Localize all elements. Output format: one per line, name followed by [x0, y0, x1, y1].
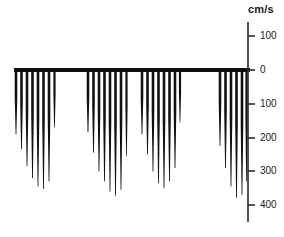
- axis-tick-label: 100: [260, 98, 277, 109]
- velocity-spike: [141, 70, 144, 134]
- velocity-spike: [163, 70, 166, 188]
- velocity-spike: [146, 70, 149, 155]
- velocity-spike: [157, 70, 160, 183]
- velocity-spike: [92, 70, 95, 153]
- axis-tick-label: 400: [260, 199, 277, 210]
- velocity-spike: [241, 70, 244, 195]
- velocity-spike: [31, 70, 34, 178]
- axis-tick-label: 200: [260, 132, 277, 143]
- axis-tick-label: 300: [260, 165, 277, 176]
- velocity-spike: [15, 70, 18, 134]
- velocity-spike: [235, 70, 238, 198]
- velocity-spike: [174, 70, 177, 168]
- spike-cluster: [219, 70, 248, 198]
- velocity-spike: [53, 70, 55, 127]
- velocity-spike: [98, 70, 101, 171]
- velocity-spike: [48, 70, 51, 182]
- velocity-spike: [26, 70, 29, 166]
- velocity-spike: [219, 70, 222, 146]
- spike-cluster: [87, 70, 128, 196]
- velocity-spike: [20, 70, 23, 149]
- velocity-spike: [87, 70, 90, 133]
- velocity-spike: [109, 70, 112, 192]
- velocity-spike: [168, 70, 171, 182]
- velocity-spike: [230, 70, 233, 187]
- velocity-spike: [37, 70, 40, 187]
- velocity-spike: [120, 70, 123, 190]
- spike-cluster: [141, 70, 181, 188]
- velocity-spike: [114, 70, 117, 196]
- doppler-waveform-plot: [0, 0, 284, 237]
- axis-tick-label: 0: [260, 64, 266, 75]
- axis-tick-marks-group: [248, 36, 255, 205]
- velocity-spike: [152, 70, 155, 171]
- velocity-spikes-group: [15, 70, 248, 198]
- velocity-spike: [42, 70, 45, 189]
- velocity-spike: [179, 70, 181, 122]
- velocity-spike: [224, 70, 227, 168]
- velocity-unit-label: cm/s: [248, 3, 274, 15]
- doppler-spectral-display: cm/s 1000100200300400: [0, 0, 284, 237]
- velocity-spike: [125, 70, 127, 156]
- spike-cluster: [15, 70, 56, 189]
- velocity-spike: [103, 70, 106, 182]
- axis-tick-label: 100: [260, 30, 277, 41]
